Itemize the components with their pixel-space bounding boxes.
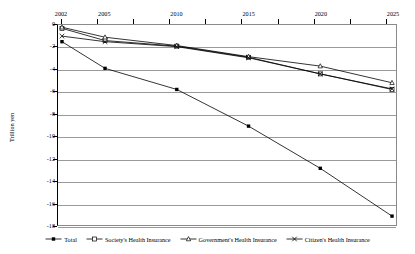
y-axis-tick-labels: 0-2-4-6-8-10-12-14-16-18 (29, 24, 55, 226)
y-tick-label: -2 (33, 43, 55, 49)
line-chart: Trillion yen 0-2-4-6-8-10-12-14-16-18 20… (0, 0, 415, 254)
data-point-marker (175, 88, 178, 91)
data-point-marker (319, 167, 322, 170)
series-citizen-s-health-insurance (60, 34, 395, 91)
legend-label: Society's Health Insurance (105, 236, 171, 243)
gridline (58, 227, 396, 228)
x-tick-label: 2005 (98, 10, 110, 17)
legend-marker-open-square-icon (86, 235, 103, 243)
y-tick-label: -16 (33, 201, 55, 207)
chart-legend: TotalSociety's Health InsuranceGovernmen… (0, 232, 415, 246)
series-line (62, 27, 392, 83)
y-tick-label: -12 (33, 156, 55, 162)
series-line (62, 42, 392, 216)
legend-label: Citizen's Health Insurance (305, 236, 370, 243)
legend-label: Government's Health Insurance (199, 236, 277, 243)
legend-marker-cross-x-icon (286, 235, 303, 243)
y-axis-title: Trillion yen (4, 92, 18, 162)
data-point-marker (247, 124, 250, 127)
y-tick-label: -8 (33, 111, 55, 117)
legend-marker-open-triangle-icon (180, 235, 197, 243)
series-line (62, 28, 392, 89)
series-total (60, 40, 393, 218)
plot-area (57, 24, 397, 226)
series-society-s-health-insurance (60, 26, 394, 91)
data-point-marker (103, 67, 106, 70)
series-layer (58, 25, 396, 225)
data-point-marker (60, 40, 63, 43)
data-point-marker (390, 214, 393, 217)
y-tick-label: -18 (33, 223, 55, 229)
y-tick-mark (53, 226, 57, 227)
y-tick-label: -14 (33, 178, 55, 184)
x-tick-label: 2020 (315, 10, 327, 17)
x-axis-tick-labels: 200220052010201520202025 (57, 10, 397, 22)
legend-item[interactable]: Society's Health Insurance (86, 235, 171, 243)
y-tick-label: -6 (33, 88, 55, 94)
y-tick-label: -10 (33, 133, 55, 139)
legend-marker-filled-square-icon (45, 235, 62, 243)
y-tick-label: -4 (33, 66, 55, 72)
x-tick-label: 2002 (55, 10, 67, 17)
y-axis-title-label: Trillion yen (8, 108, 15, 148)
legend-label: Total (64, 236, 77, 243)
x-tick-label: 2015 (242, 10, 254, 17)
legend-item[interactable]: Government's Health Insurance (180, 235, 277, 243)
legend-item[interactable]: Total (45, 235, 77, 243)
y-tick-label: 0 (33, 21, 55, 27)
x-tick-label: 2025 (387, 10, 399, 17)
x-tick-label: 2010 (170, 10, 182, 17)
legend-item[interactable]: Citizen's Health Insurance (286, 235, 370, 243)
series-line (62, 36, 392, 89)
